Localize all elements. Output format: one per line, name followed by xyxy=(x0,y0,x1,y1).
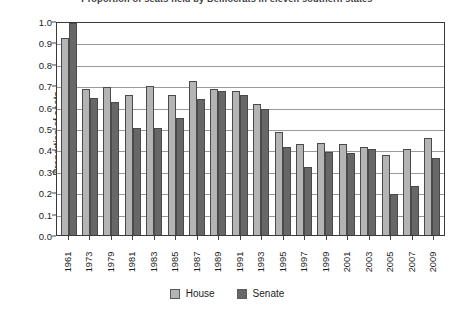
x-axis-tick-slot: 2005 xyxy=(380,241,402,281)
x-axis-tick-mark xyxy=(304,236,305,240)
y-axis-tick-label: 0.6 xyxy=(22,102,52,113)
bar-senate-1987 xyxy=(197,99,205,235)
x-axis-tick-slot: 1999 xyxy=(315,241,337,281)
bar-senate-1983 xyxy=(154,128,162,235)
x-axis-tick-slot: 2009 xyxy=(423,241,445,281)
x-axis-tick-mark xyxy=(261,236,262,240)
x-axis-tick-slot: 1979 xyxy=(100,241,122,281)
bar-senate-1985 xyxy=(176,118,184,235)
bar-house-1989 xyxy=(210,89,218,235)
bar-house-2005 xyxy=(382,155,390,235)
x-axis-tick-mark xyxy=(218,236,219,240)
chart-legend: HouseSenate xyxy=(0,288,454,299)
bar-house-1999 xyxy=(317,143,325,235)
x-axis-tick-slot: 1961 xyxy=(57,241,79,281)
x-axis-tick-label: 1983 xyxy=(149,252,159,273)
y-axis-tick-label: 0.7 xyxy=(22,81,52,92)
x-axis-tick-label: 1985 xyxy=(170,252,180,273)
bar-house-2001 xyxy=(339,144,347,235)
x-axis-tick-label: 1989 xyxy=(213,252,223,273)
bar-group xyxy=(400,23,421,235)
senate-swatch xyxy=(237,289,247,299)
bar-senate-1991 xyxy=(240,95,248,235)
bar-senate-2007 xyxy=(411,186,419,235)
bar-group xyxy=(251,23,272,235)
bar-group xyxy=(379,23,400,235)
y-axis-tick-labels: 1.00.90.80.70.60.50.40.30.20.10.0 xyxy=(22,22,52,236)
legend-label: House xyxy=(186,288,215,299)
x-axis-tick-slot: 1991 xyxy=(229,241,251,281)
bar-senate-1981 xyxy=(133,128,141,235)
bar-senate-2001 xyxy=(347,153,355,235)
bar-house-1997 xyxy=(296,144,304,235)
x-axis-tick-label: 1999 xyxy=(321,252,331,273)
x-axis-tick-mark xyxy=(154,236,155,240)
bar-house-1983 xyxy=(146,86,154,235)
x-axis-tick-mark xyxy=(68,236,69,240)
x-axis-tick-label: 1973 xyxy=(84,252,94,273)
x-axis-tick-slot: 1985 xyxy=(165,241,187,281)
x-axis-tick-labels: 1961197319791981198319851987198919911993… xyxy=(56,241,445,281)
bar-senate-1989 xyxy=(218,91,226,235)
house-swatch xyxy=(170,289,180,299)
x-axis-tick-slot: 2003 xyxy=(358,241,380,281)
bar-house-1973 xyxy=(82,89,90,235)
bar-group xyxy=(58,23,79,235)
x-axis-tick-label: 1979 xyxy=(106,252,116,273)
x-axis-tick-label: 2001 xyxy=(342,252,352,273)
bar-senate-2005 xyxy=(390,194,398,235)
bar-group xyxy=(357,23,378,235)
x-axis-tick-mark xyxy=(132,236,133,240)
legend-item-senate[interactable]: Senate xyxy=(237,288,285,299)
bar-senate-1979 xyxy=(111,102,119,235)
x-axis-tick-mark xyxy=(433,236,434,240)
bar-group xyxy=(229,23,250,235)
bar-group xyxy=(79,23,100,235)
x-axis-tick-slot: 1993 xyxy=(251,241,273,281)
bar-senate-1997 xyxy=(304,167,312,235)
bar-house-1993 xyxy=(253,104,261,235)
x-axis-tick-label: 1997 xyxy=(299,252,309,273)
x-axis-tick-mark xyxy=(197,236,198,240)
bar-chart-figure: Proportion of seats held by Democrats in… xyxy=(0,0,454,311)
bar-group xyxy=(101,23,122,235)
bar-house-1985 xyxy=(168,95,176,235)
x-axis-tick-label: 1995 xyxy=(278,252,288,273)
bar-house-1987 xyxy=(189,81,197,235)
x-axis-tick-label: 2007 xyxy=(407,252,417,273)
bar-house-1991 xyxy=(232,91,240,235)
legend-label: Senate xyxy=(253,288,285,299)
y-axis-tick-label: 0.3 xyxy=(22,166,52,177)
bar-house-2003 xyxy=(360,147,368,235)
plot-area xyxy=(56,22,445,236)
bar-house-2009 xyxy=(424,138,432,235)
y-axis-tick-label: 0.4 xyxy=(22,145,52,156)
bar-group xyxy=(315,23,336,235)
bar-group xyxy=(122,23,143,235)
x-axis-tick-label: 1961 xyxy=(63,252,73,273)
legend-item-house[interactable]: House xyxy=(170,288,215,299)
x-axis-tick-mark xyxy=(89,236,90,240)
y-axis-tick-label: 0.1 xyxy=(22,209,52,220)
y-axis-tick-label: 0.5 xyxy=(22,124,52,135)
x-axis-tick-slot: 1987 xyxy=(186,241,208,281)
bar-groups xyxy=(57,23,444,235)
x-axis-tick-label: 1981 xyxy=(127,252,137,273)
x-axis-tick-slot: 2007 xyxy=(401,241,423,281)
bar-senate-2009 xyxy=(432,158,440,235)
x-axis-tick-label: 1991 xyxy=(235,252,245,273)
bar-group xyxy=(293,23,314,235)
y-axis-tick-label: 0.2 xyxy=(22,188,52,199)
bar-senate-1961 xyxy=(69,23,77,235)
bar-group xyxy=(336,23,357,235)
bar-house-1961 xyxy=(61,38,69,235)
x-axis-tick-label: 1987 xyxy=(192,252,202,273)
bar-senate-1995 xyxy=(283,147,291,235)
x-axis-tick-label: 2005 xyxy=(385,252,395,273)
x-axis-tick-label: 2009 xyxy=(428,252,438,273)
chart-title: Proportion of seats held by Democrats in… xyxy=(0,0,454,5)
bar-house-1995 xyxy=(275,132,283,235)
x-axis-tick-mark xyxy=(326,236,327,240)
y-axis-tick-label: 0.0 xyxy=(22,231,52,242)
x-axis-tick-mark xyxy=(390,236,391,240)
